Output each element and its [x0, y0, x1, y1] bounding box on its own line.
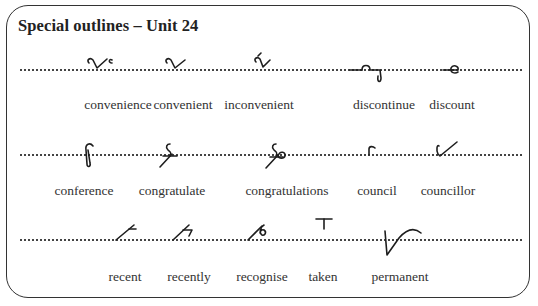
word-label: council [357, 183, 397, 199]
word-label: convenient [153, 97, 212, 113]
shorthand-taken-icon [316, 219, 332, 229]
word-label: convenience [84, 97, 151, 113]
word-label: councillor [421, 183, 476, 199]
shorthand-convenient-icon [166, 59, 185, 68]
shorthand-congratulations-icon [266, 144, 285, 168]
word-label: congratulate [139, 183, 206, 199]
shorthand-councillor-icon [437, 142, 457, 156]
shorthand-conference-icon [86, 144, 93, 167]
shorthand-outlines [0, 0, 538, 306]
shorthand-recently-icon [173, 225, 192, 240]
shorthand-recent-icon [116, 225, 136, 240]
shorthand-congratulate-icon [160, 144, 177, 167]
word-label: taken [308, 269, 337, 285]
word-label: recognise [236, 269, 288, 285]
word-label: conference [54, 183, 113, 199]
shorthand-recognise-icon [248, 225, 265, 240]
word-label: discontinue [353, 97, 415, 113]
shorthand-council-icon [369, 147, 375, 155]
shorthand-inconvenient-icon [255, 53, 270, 67]
word-label: permanent [372, 269, 429, 285]
shorthand-permanent-icon [385, 230, 421, 255]
word-label: recently [167, 269, 210, 285]
word-label: inconvenient [224, 97, 294, 113]
word-label: discount [429, 97, 475, 113]
shorthand-discount-icon [443, 66, 458, 73]
word-label: congratulations [245, 183, 328, 199]
shorthand-discontinue-icon [350, 66, 381, 82]
shorthand-convenience-icon [88, 59, 112, 68]
word-label: recent [109, 269, 142, 285]
